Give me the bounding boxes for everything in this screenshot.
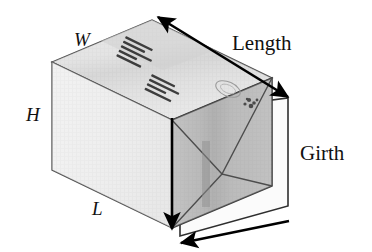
box-dimensions-figure: W H L Length Girth [0, 0, 372, 252]
label-length-side: L [92, 199, 103, 218]
box-illustration [0, 0, 372, 252]
label-width: W [74, 30, 90, 49]
label-girth-arrow: Girth [300, 143, 344, 164]
label-height: H [26, 105, 40, 124]
label-length-arrow: Length [232, 33, 291, 54]
